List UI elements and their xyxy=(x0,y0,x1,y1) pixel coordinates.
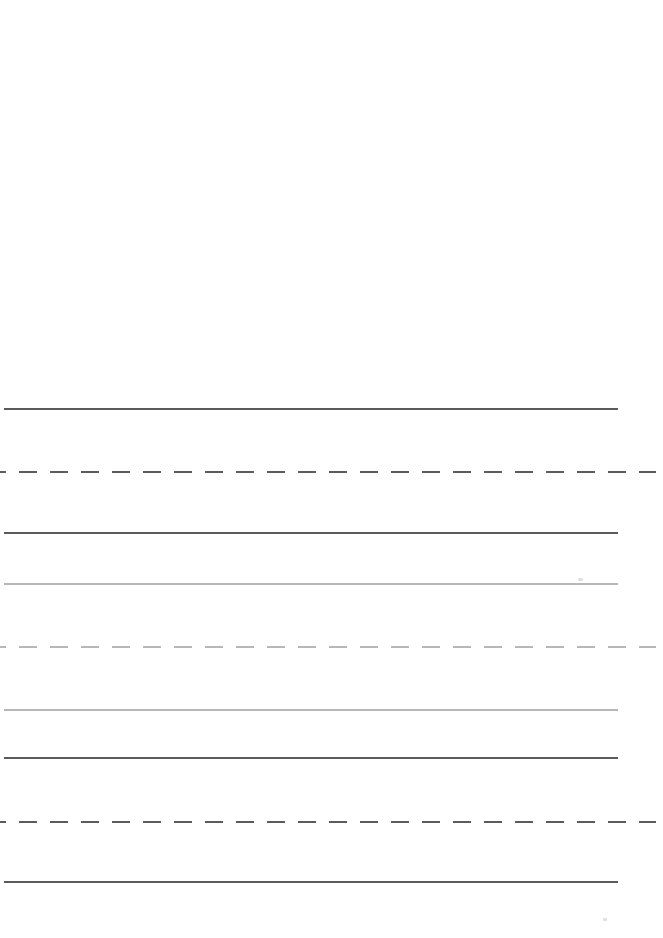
line-stroke-solid xyxy=(4,757,618,760)
chart-line-4 xyxy=(4,583,618,585)
line-stroke-solid xyxy=(4,408,618,410)
chart-line-7 xyxy=(4,757,618,760)
line-stroke-solid xyxy=(4,709,618,711)
speck-lower-right xyxy=(603,918,607,921)
line-stroke-dashed xyxy=(0,646,656,649)
chart-line-9 xyxy=(4,881,618,884)
chart-canvas xyxy=(0,0,663,938)
line-stroke-solid xyxy=(4,881,618,884)
chart-line-8 xyxy=(0,821,656,824)
line-stroke-solid xyxy=(4,583,618,585)
line-stroke-solid xyxy=(4,532,618,535)
speck-upper-right xyxy=(578,578,583,581)
chart-line-6 xyxy=(4,709,618,711)
chart-line-5 xyxy=(0,646,656,649)
chart-line-2 xyxy=(0,471,656,474)
line-stroke-dashed xyxy=(0,821,656,824)
chart-line-1 xyxy=(4,408,618,410)
line-stroke-dashed xyxy=(0,471,656,474)
chart-line-3 xyxy=(4,532,618,535)
